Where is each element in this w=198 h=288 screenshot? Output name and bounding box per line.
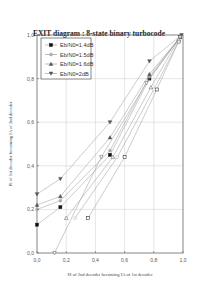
triangle-down-marker [148, 60, 152, 63]
square-marker [59, 206, 62, 209]
triangle-up-marker [149, 86, 153, 89]
y-tick-label: 0,6 [27, 119, 34, 125]
circle-marker [50, 53, 53, 56]
legend-entry: Eb/N0=1.6dB [60, 61, 94, 67]
circle-marker [73, 217, 76, 220]
legend-entry: Eb/N0=2dB [60, 71, 89, 77]
x-tick-label: 0,8 [150, 257, 157, 263]
square-marker [123, 156, 126, 159]
circle-marker [109, 149, 112, 152]
x-tick-label: 0,6 [121, 257, 128, 263]
y-tick-label: 0,0 [27, 250, 34, 256]
x-tick-label: 1,0 [180, 257, 187, 263]
y-tick-label: 0,8 [27, 76, 34, 82]
x-axis-label: IS of 2nd decoder becoming IA of 1st dec… [68, 272, 153, 277]
legend: Eb/N0=1.4dBEb/N0=1.5dBEb/N0=1.6dBEb/N0=2… [41, 38, 94, 79]
y-axis-label: IS of 1st decoder becoming IA of 2nd dec… [8, 101, 13, 186]
chart-svg: 0,00,00,20,20,40,40,60,60,80,81,01,0 IS … [0, 0, 198, 288]
legend-entry: Eb/N0=1.5dB [60, 52, 94, 58]
square-marker [155, 88, 158, 91]
square-marker [109, 153, 112, 156]
square-marker [87, 217, 90, 220]
y-tick-label: 0,4 [27, 163, 34, 169]
y-tick-label: 1,0 [27, 32, 34, 38]
triangle-down-marker [59, 177, 63, 180]
legend-entry: Eb/N0=1.4dB [60, 42, 94, 48]
square-marker [50, 44, 53, 47]
x-tick-label: 0,0 [34, 257, 41, 263]
circle-marker [59, 199, 62, 202]
x-tick-label: 0,2 [63, 257, 70, 263]
square-marker [36, 223, 39, 226]
x-tick-label: 0,4 [92, 257, 99, 263]
triangle-up-marker [108, 136, 112, 139]
triangle-down-marker [35, 193, 39, 196]
circle-marker [116, 156, 119, 159]
y-tick-label: 0,2 [27, 206, 34, 212]
triangle-up-marker [35, 203, 39, 206]
